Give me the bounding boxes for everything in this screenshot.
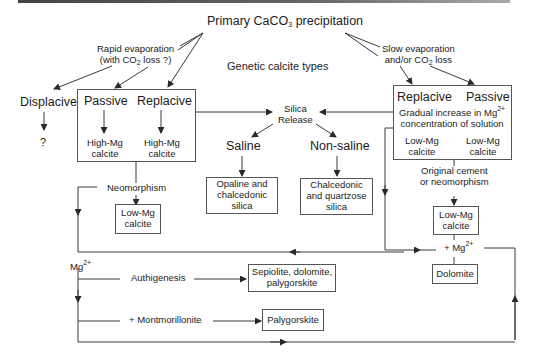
left-replacive-result: High-Mgcalcite xyxy=(144,138,180,160)
saline-label: Saline xyxy=(226,139,261,153)
right-replacive-label: Replacive xyxy=(397,90,452,104)
primary-precipitation-title: Primary CaCO3 precipitation xyxy=(207,14,363,29)
sepiolite-box: Sepiolite, dolomite,palygorskite xyxy=(248,264,336,292)
opaline-silica-box: Opaline andchalcedonicsilica xyxy=(206,177,278,214)
palygorskite-box: Palygorskite xyxy=(262,309,324,331)
displacive-label: Displacive xyxy=(20,95,77,109)
neomorphism-label: Neomorphism xyxy=(107,183,166,194)
left-replacive-label: Replacive xyxy=(137,94,192,108)
mg-addition-right: + Mg2+ xyxy=(444,240,473,254)
left-passive-label: Passive xyxy=(84,94,128,108)
mg-left-label: Mg2+ xyxy=(70,259,91,273)
non-saline-label: Non-saline xyxy=(310,139,370,153)
right-replacive-result: Low-Mgcalcite xyxy=(405,136,439,158)
chalcedonic-silica-box: Chalcedonicand quartzosesilica xyxy=(300,178,373,215)
right-passive-result: Low-Mgcalcite xyxy=(466,136,500,158)
montmorillonite-label: + Montmorillonite xyxy=(129,315,202,326)
genetic-calcite-types-label: Genetic calcite types xyxy=(227,60,329,73)
displacive-unknown-result: ? xyxy=(40,136,46,149)
dolomite-box: Dolomite xyxy=(432,264,478,284)
left-passive-result: High-Mgcalcite xyxy=(87,138,123,160)
mg-concentration-note: Gradual increase in Mg2+ concentration o… xyxy=(399,105,505,130)
original-cement-label: Original cementor neomorphism xyxy=(420,166,489,188)
neomorphism-low-mg-calcite-box: Low-Mgcalcite xyxy=(115,204,161,234)
original-cement-low-mg-calcite-box: Low-Mgcalcite xyxy=(433,206,479,235)
authigenesis-label: Authigenesis xyxy=(131,273,185,284)
right-passive-label: Passive xyxy=(466,90,510,104)
rapid-evaporation-label: Rapid evaporation (with CO2 loss ?) xyxy=(97,44,174,67)
slow-evaporation-label: Slow evaporation and/or CO2 loss xyxy=(382,44,455,67)
silica-release-label: SilicaRelease xyxy=(278,104,313,126)
